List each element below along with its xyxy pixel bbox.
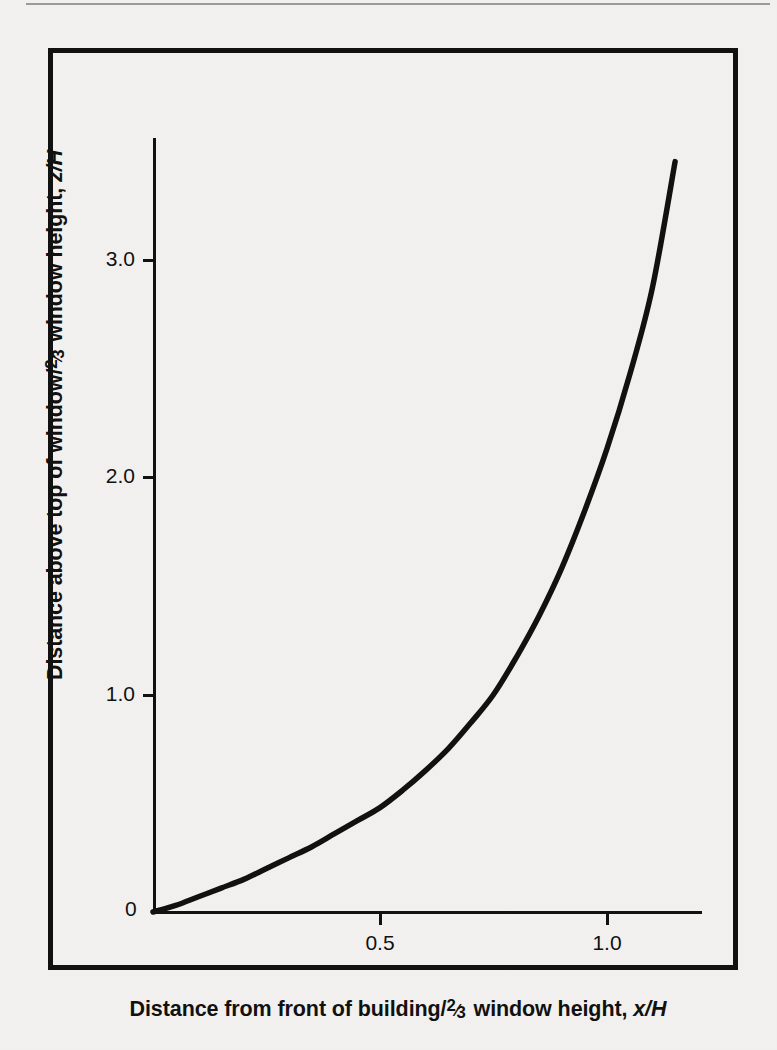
x-axis-title: Distance from front of building/2⁄3 wind… — [53, 997, 743, 1022]
curve-path — [153, 162, 675, 912]
plot-area: 1.02.03.0 0.51.0 0 Distance from front o… — [53, 53, 743, 975]
two-thirds-fraction: 2⁄3 — [446, 1003, 467, 1020]
axis-symbol: x/H — [633, 997, 666, 1021]
page-background: 1.02.03.0 0.51.0 0 Distance from front o… — [0, 0, 777, 1050]
figure-frame: 1.02.03.0 0.51.0 0 Distance from front o… — [48, 48, 738, 970]
data-curve — [53, 53, 743, 975]
page-top-rule — [26, 3, 770, 5]
